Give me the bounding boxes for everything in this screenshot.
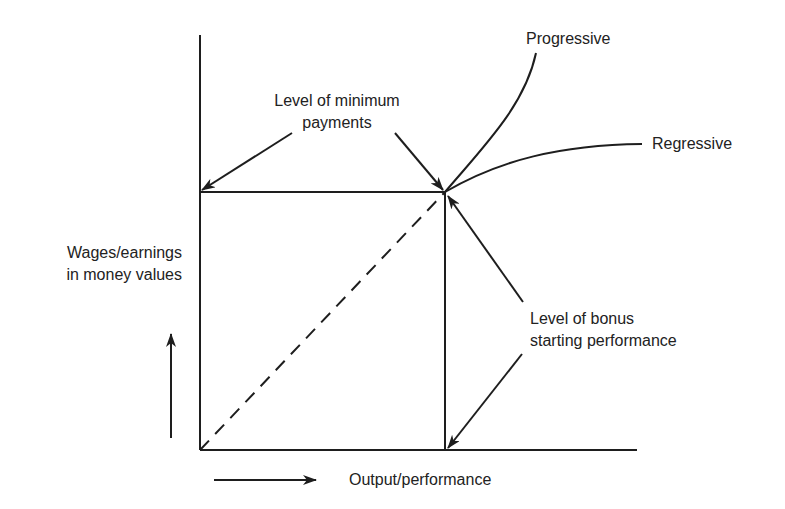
bonus-arrow-down xyxy=(448,354,522,448)
progressive-curve xyxy=(445,53,536,192)
bonus-start-label: Level of bonus starting performance xyxy=(530,308,677,352)
regressive-label: Regressive xyxy=(652,133,732,155)
min-payments-label-line1: Level of minimum xyxy=(262,90,412,112)
min-payments-label: Level of minimum payments xyxy=(262,90,412,134)
x-axis-label: Output/performance xyxy=(349,469,491,491)
y-axis-label-line1: Wages/earnings xyxy=(20,242,182,264)
y-axis-label: Wages/earnings in money values xyxy=(20,242,182,286)
bonus-start-label-line1: Level of bonus xyxy=(530,308,677,330)
bonus-start-label-line2: starting performance xyxy=(530,330,677,352)
progressive-label: Progressive xyxy=(526,28,610,50)
bonus-arrow-up xyxy=(448,196,523,302)
proportional-dashed-line xyxy=(200,192,445,450)
min-payment-arrow-left xyxy=(202,133,292,190)
regressive-curve xyxy=(445,144,642,192)
min-payments-label-line2: payments xyxy=(262,112,412,134)
y-axis-label-line2: in money values xyxy=(20,264,182,286)
min-payment-arrow-right xyxy=(395,133,443,190)
